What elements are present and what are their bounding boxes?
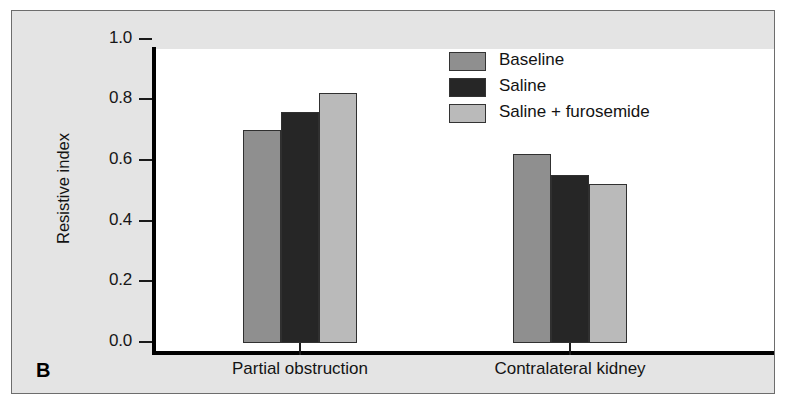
y-tick-mark-3 xyxy=(139,159,152,161)
chart-panel: 1.0 0.8 0.6 0.4 0.2 0.0 Resistive index … xyxy=(11,10,775,394)
figure-panel-b: 1.0 0.8 0.6 0.4 0.2 0.0 Resistive index … xyxy=(0,0,790,412)
y-tick-label-0: 0.0 xyxy=(88,331,132,351)
panel-letter: B xyxy=(36,359,50,382)
bar-partial-obstruction-saline-furosemide xyxy=(319,93,357,343)
x-tick-mark-1 xyxy=(569,343,571,355)
bar-contralateral-kidney-saline-furosemide xyxy=(589,184,627,343)
bar-partial-obstruction-baseline xyxy=(243,130,281,343)
legend-label-saline: Saline xyxy=(499,76,546,96)
legend-swatch-saline-furosemide xyxy=(449,104,486,123)
y-tick-label-4: 0.8 xyxy=(88,88,132,108)
bar-contralateral-kidney-baseline xyxy=(513,154,551,343)
y-tick-label-1: 0.2 xyxy=(88,270,132,290)
y-tick-mark-1 xyxy=(139,280,152,282)
x-tick-label-0: Partial obstruction xyxy=(232,359,368,379)
x-tick-mark-0 xyxy=(299,343,301,355)
y-tick-label-3: 0.6 xyxy=(88,149,132,169)
y-tick-label-2: 0.4 xyxy=(88,210,132,230)
legend-swatch-saline xyxy=(449,78,486,97)
bar-partial-obstruction-saline xyxy=(281,112,319,343)
legend-label-saline-furosemide: Saline + furosemide xyxy=(499,102,650,122)
legend-swatch-baseline xyxy=(449,52,486,71)
y-tick-mark-5 xyxy=(139,38,152,40)
y-tick-mark-2 xyxy=(139,220,152,222)
x-tick-label-1: Contralateral kidney xyxy=(494,359,645,379)
legend-label-baseline: Baseline xyxy=(499,50,564,70)
x-axis-line xyxy=(152,351,774,355)
y-axis-line xyxy=(152,47,156,355)
y-tick-mark-4 xyxy=(139,98,152,100)
y-axis-title: Resistive index xyxy=(54,109,73,269)
y-tick-label-5: 1.0 xyxy=(88,28,132,48)
y-tick-mark-0 xyxy=(139,341,152,343)
bar-contralateral-kidney-saline xyxy=(551,175,589,343)
